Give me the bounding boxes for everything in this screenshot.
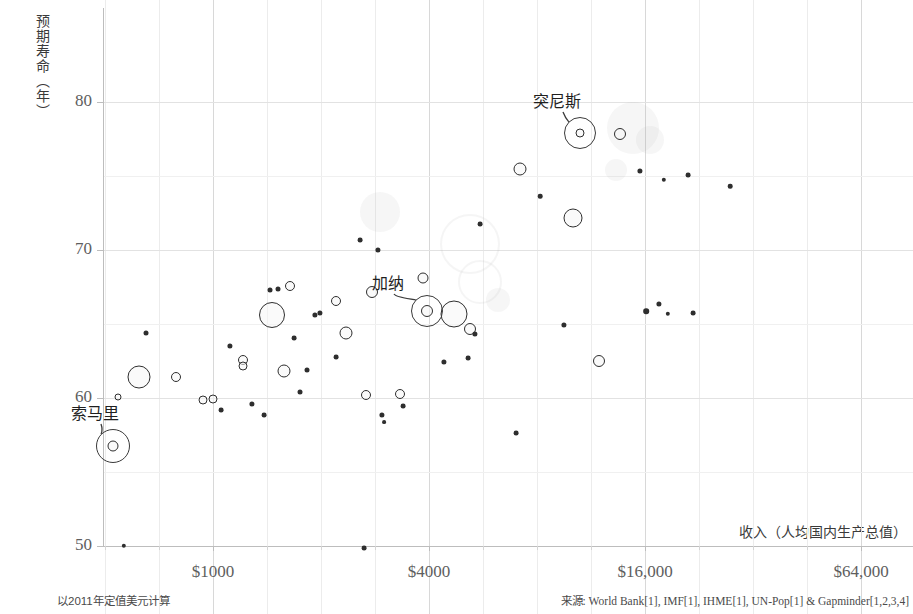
y-tick-label: 70 [52, 239, 92, 259]
grid-line-vertical-minor [321, 0, 322, 614]
data-point-bubble[interactable] [276, 287, 281, 292]
data-point-bubble[interactable] [292, 336, 297, 341]
data-point-bubble[interactable] [514, 431, 519, 436]
data-point-bubble[interactable] [691, 311, 696, 316]
data-point-bubble[interactable] [239, 362, 248, 371]
y-tick-label: 80 [52, 91, 92, 111]
grid-line-vertical-minor [483, 0, 484, 614]
data-point-bubble[interactable] [278, 365, 291, 378]
data-point-bubble[interactable] [401, 404, 406, 409]
data-point-bubble[interactable] [564, 209, 583, 228]
data-point-bubble[interactable] [249, 401, 254, 406]
data-point-bubble[interactable] [395, 389, 405, 399]
data-point-bubble[interactable] [262, 413, 267, 418]
data-point-bubble[interactable] [614, 128, 626, 140]
data-point-bubble[interactable] [144, 331, 149, 336]
y-axis-tick [97, 102, 103, 103]
grid-line-horizontal-minor [103, 472, 913, 473]
y-axis-line [103, 8, 104, 546]
data-point-bubble[interactable] [662, 178, 666, 182]
data-point-bubble[interactable] [375, 247, 380, 252]
y-axis-tick [97, 250, 103, 251]
x-axis-tick-minor [537, 546, 538, 550]
data-point-bubble[interactable] [334, 355, 339, 360]
data-point-bubble[interactable] [305, 368, 310, 373]
data-point-bubble[interactable] [686, 173, 691, 178]
grid-line-horizontal-minor [103, 176, 913, 177]
data-point-bubble[interactable] [418, 273, 429, 284]
grid-line-vertical-minor [591, 0, 592, 614]
data-point-bubble[interactable] [514, 163, 527, 176]
footnote-source: 来源: World Bank[1], IMF[1], IHME[1], UN-P… [561, 592, 909, 608]
grid-line-vertical-minor [375, 0, 376, 614]
x-axis-tick-minor [591, 546, 592, 550]
watermark-blob [360, 192, 400, 232]
x-axis-tick [645, 546, 646, 551]
grid-line-vertical [861, 0, 862, 614]
data-point-bubble[interactable] [362, 546, 367, 551]
footnote-currency: 以2011年定值美元计算 [57, 592, 170, 608]
x-tick-label: $1000 [192, 562, 235, 582]
x-axis-tick-minor [753, 546, 754, 550]
grid-line-vertical [645, 0, 646, 614]
data-point-bubble[interactable] [441, 359, 446, 364]
data-point-bubble[interactable] [472, 331, 477, 336]
data-point-bubble[interactable] [361, 390, 371, 400]
grid-line-vertical-minor [159, 0, 160, 614]
data-point-bubble[interactable] [382, 420, 386, 424]
data-point-bubble[interactable] [637, 168, 642, 173]
x-axis-line [103, 546, 913, 547]
data-point-bubble[interactable] [656, 301, 661, 306]
data-point-bubble[interactable] [268, 288, 273, 293]
data-point-bubble[interactable] [358, 238, 363, 243]
x-tick-label: $16,000 [617, 562, 672, 582]
data-point-bubble[interactable] [538, 194, 543, 199]
data-point-bubble[interactable] [285, 281, 295, 291]
grid-line-horizontal [103, 250, 913, 251]
x-axis-tick-minor [807, 546, 808, 550]
data-point-bubble[interactable] [466, 356, 471, 361]
x-axis-tick [213, 546, 214, 551]
data-point-bubble[interactable] [227, 343, 232, 348]
x-axis-title: 收入（人均国内生产总值） [739, 521, 907, 541]
data-point-bubble[interactable] [122, 544, 126, 548]
data-point-bubble[interactable] [593, 355, 605, 367]
data-point-bubble[interactable] [561, 322, 566, 327]
watermark-blob [636, 126, 664, 154]
annotation-label-3[interactable]: 突尼斯 [533, 88, 581, 112]
data-point-bubble[interactable] [666, 312, 670, 316]
data-point-bubble[interactable] [331, 296, 341, 306]
data-point-bubble[interactable] [128, 366, 151, 389]
data-point-bubble[interactable] [379, 412, 384, 417]
x-tick-label: $4000 [408, 562, 451, 582]
annotation-highlight-ring [96, 429, 130, 463]
data-point-bubble[interactable] [298, 390, 303, 395]
data-point-bubble[interactable] [728, 184, 733, 189]
x-axis-tick-minor [699, 546, 700, 550]
data-point-bubble[interactable] [209, 395, 218, 404]
data-point-bubble[interactable] [643, 308, 649, 314]
watermark-blob [486, 288, 510, 312]
data-point-bubble[interactable] [199, 396, 208, 405]
grid-line-horizontal [103, 398, 913, 399]
x-tick-label: $64,000 [833, 562, 888, 582]
data-point-bubble[interactable] [259, 302, 285, 328]
x-axis-tick-minor [267, 546, 268, 550]
x-axis-tick-minor [105, 546, 106, 550]
data-point-bubble[interactable] [340, 327, 353, 340]
x-axis-tick-minor [321, 546, 322, 550]
data-point-bubble[interactable] [219, 408, 224, 413]
grid-line-horizontal [103, 102, 913, 103]
annotation-label-1[interactable]: 索马里 [71, 400, 119, 424]
grid-line-vertical [213, 0, 214, 614]
y-axis-tick [97, 546, 103, 547]
annotation-label-2[interactable]: 加纳 [372, 270, 404, 294]
data-point-bubble[interactable] [171, 372, 181, 382]
watermark-blob [605, 159, 627, 181]
x-axis-tick [429, 546, 430, 551]
y-axis-title: 预期寿命（年） [30, 14, 52, 119]
data-point-bubble[interactable] [478, 222, 483, 227]
annotation-highlight-ring [411, 295, 443, 327]
annotation-highlight-ring [564, 117, 596, 149]
data-point-bubble[interactable] [441, 301, 468, 328]
